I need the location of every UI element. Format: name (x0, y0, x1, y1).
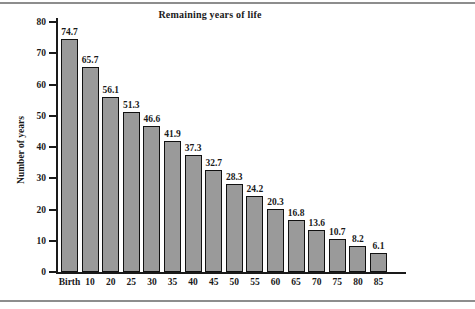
y-axis-tick-label: 40 (18, 142, 46, 152)
bar-value-label: 16.8 (281, 208, 312, 218)
bar-value-label: 46.6 (136, 114, 167, 124)
bar (185, 155, 202, 272)
x-axis-line (56, 272, 406, 274)
y-axis-tick (49, 177, 57, 179)
y-axis-tick (49, 271, 57, 273)
bar-value-label: 41.9 (157, 129, 188, 139)
y-axis-tick (49, 240, 57, 242)
bar-chart-plot: Remaining years of life Number of years … (0, 0, 475, 309)
y-axis-tick-label: 50 (18, 111, 46, 121)
bar (82, 67, 99, 272)
y-axis-tick-label: 0 (18, 267, 46, 277)
bar-value-label: 56.1 (95, 85, 126, 95)
y-axis-tick-label: 10 (18, 236, 46, 246)
bar (102, 97, 119, 272)
y-axis-tick-label: 80 (18, 17, 46, 27)
x-axis-tick-label: 85 (361, 277, 396, 287)
bar (226, 184, 243, 272)
bar-value-label: 51.3 (116, 100, 147, 110)
bar-value-label: 24.2 (239, 184, 270, 194)
y-axis-tick-label: 60 (18, 80, 46, 90)
bar (143, 126, 160, 272)
y-axis-tick (49, 52, 57, 54)
y-axis-tick (49, 146, 57, 148)
bar (61, 39, 78, 272)
bar-value-label: 6.1 (363, 241, 394, 251)
chart-title: Remaining years of life (100, 9, 320, 20)
y-axis-tick-label: 30 (18, 173, 46, 183)
bar (205, 170, 222, 272)
y-axis-tick (49, 84, 57, 86)
bar-value-label: 74.7 (54, 27, 85, 37)
bar-value-label: 37.3 (178, 143, 209, 153)
y-axis-tick-label: 70 (18, 48, 46, 58)
bar-value-label: 20.3 (260, 197, 291, 207)
bar (246, 196, 263, 272)
y-axis-tick (49, 115, 57, 117)
bar (370, 253, 387, 272)
bar (123, 112, 140, 272)
bar-value-label: 32.7 (198, 158, 229, 168)
y-axis-tick (49, 209, 57, 211)
chart-page: Remaining years of life Number of years … (0, 0, 475, 309)
bar-value-label: 28.3 (219, 172, 250, 182)
bar (267, 209, 284, 272)
y-axis-tick (49, 21, 57, 23)
bar-value-label: 65.7 (75, 55, 106, 65)
y-axis-tick-label: 20 (18, 205, 46, 215)
bar (164, 141, 181, 272)
